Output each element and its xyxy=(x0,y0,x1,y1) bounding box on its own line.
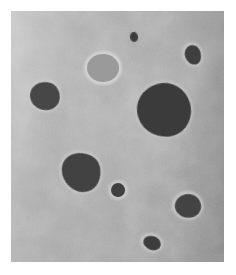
gray-matrix-panel xyxy=(11,11,224,262)
particle-small-center xyxy=(111,183,125,197)
micrograph-figure xyxy=(0,0,236,275)
particle-light-gray xyxy=(87,54,119,82)
